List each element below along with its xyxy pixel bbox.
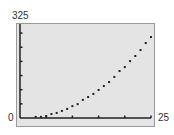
- data-point: [124, 66, 126, 68]
- data-point: [92, 93, 94, 95]
- scatter-plot: [0, 0, 174, 135]
- data-point: [77, 103, 79, 105]
- data-point: [113, 76, 115, 78]
- axes: [20, 24, 151, 118]
- data-point: [66, 108, 68, 110]
- data-point: [50, 113, 52, 115]
- data-point: [61, 110, 63, 112]
- data-point: [129, 60, 131, 62]
- data-point: [108, 81, 110, 83]
- data-point: [150, 36, 152, 38]
- data-point: [134, 55, 136, 57]
- data-point: [103, 85, 105, 87]
- data-point: [98, 89, 100, 91]
- data-point: [45, 115, 47, 117]
- data-point: [56, 112, 58, 114]
- data-point: [87, 96, 89, 98]
- data-point: [119, 70, 121, 72]
- data-point: [140, 49, 142, 51]
- data-point: [145, 42, 147, 44]
- data-point: [82, 99, 84, 101]
- data-point: [71, 105, 73, 107]
- data-point: [35, 116, 37, 118]
- data-points: [35, 36, 152, 118]
- axis-ticks: [20, 33, 151, 118]
- data-point: [40, 116, 42, 118]
